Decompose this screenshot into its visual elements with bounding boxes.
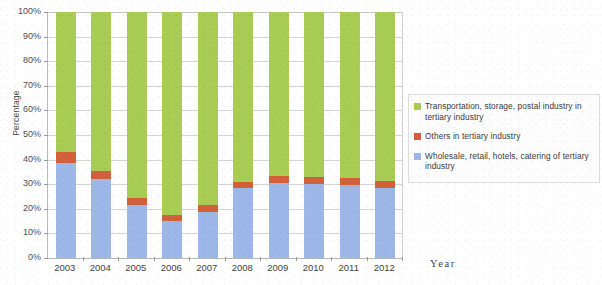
- x-tick-mark: [296, 257, 297, 261]
- bar-segment: [91, 171, 111, 180]
- y-tick-mark: [44, 110, 48, 111]
- x-tick-mark: [367, 257, 368, 261]
- y-tick-label: 70%: [23, 80, 41, 90]
- y-tick-label: 80%: [23, 55, 41, 65]
- y-tick-mark: [44, 258, 48, 259]
- plot-background: [48, 12, 403, 258]
- bar-segment: [233, 188, 253, 258]
- bar-segment: [127, 205, 147, 258]
- y-tick-mark: [44, 37, 48, 38]
- legend-swatch-icon-transportation: [414, 103, 421, 110]
- x-tick-mark: [189, 257, 190, 261]
- y-tick-mark: [44, 160, 48, 161]
- y-tick-label: 100%: [18, 6, 41, 16]
- bar-segment: [340, 12, 360, 178]
- y-tick-label: 90%: [23, 31, 41, 41]
- stacked-bar-chart: Percentage 0%10%20%30%40%50%60%70%80%90%…: [0, 0, 602, 285]
- legend-label-wholesale: Wholesale, retail, hotels, catering of t…: [425, 151, 595, 172]
- bar-segment: [198, 212, 218, 258]
- bar-segment: [91, 12, 111, 171]
- y-tick-label: 10%: [23, 227, 41, 237]
- y-tick-mark: [44, 12, 48, 13]
- x-tick-mark: [83, 257, 84, 261]
- y-tick-label: 0%: [28, 252, 41, 262]
- bar-segment: [340, 185, 360, 258]
- y-tick-label: 40%: [23, 154, 41, 164]
- x-axis-title: Year: [430, 258, 456, 269]
- bar-segment: [162, 221, 182, 258]
- legend-item-others: Others in tertiary industry: [414, 131, 595, 142]
- plot-area: 0%10%20%30%40%50%60%70%80%90%100%: [47, 12, 403, 259]
- y-tick-label: 20%: [23, 203, 41, 213]
- legend-label-transportation: Transportation, storage, postal industry…: [425, 101, 595, 122]
- x-axis-labels: 2003200420052006200720082009201020112012: [47, 262, 402, 280]
- legend-swatch-icon-wholesale: [414, 153, 421, 160]
- y-tick-label: 50%: [23, 129, 41, 139]
- legend-item-wholesale: Wholesale, retail, hotels, catering of t…: [414, 151, 595, 172]
- bar-segment: [269, 176, 289, 183]
- bar-segment: [269, 183, 289, 258]
- y-tick-mark: [44, 209, 48, 210]
- x-tick-mark: [402, 257, 403, 261]
- y-tick-label: 30%: [23, 178, 41, 188]
- bar-segment: [127, 198, 147, 205]
- x-tick-mark: [331, 257, 332, 261]
- y-tick-mark: [44, 61, 48, 62]
- bar-segment: [375, 188, 395, 258]
- x-axis-label: 2012: [362, 262, 406, 273]
- x-tick-mark: [154, 257, 155, 261]
- y-tick-mark: [44, 86, 48, 87]
- bar-segment: [340, 178, 360, 185]
- bar-segment: [198, 205, 218, 212]
- bar-column: [233, 12, 253, 258]
- y-axis-title: Percentage: [11, 73, 21, 153]
- y-tick-mark: [44, 233, 48, 234]
- x-tick-mark: [225, 257, 226, 261]
- y-tick-mark: [44, 184, 48, 185]
- bar-column: [127, 12, 147, 258]
- bar-segment: [127, 12, 147, 198]
- bar-column: [198, 12, 218, 258]
- bar-segment: [198, 12, 218, 205]
- bar-segment: [269, 12, 289, 176]
- bar-segment: [56, 163, 76, 258]
- bar-segment: [304, 184, 324, 258]
- bar-segment: [162, 215, 182, 221]
- legend-label-others: Others in tertiary industry: [425, 131, 520, 142]
- bar-segment: [162, 12, 182, 215]
- bar-column: [304, 12, 324, 258]
- y-tick-label: 60%: [23, 104, 41, 114]
- bar-series-group: [48, 12, 403, 258]
- bar-column: [56, 12, 76, 258]
- bar-segment: [375, 181, 395, 188]
- x-tick-mark: [260, 257, 261, 261]
- legend-item-transportation: Transportation, storage, postal industry…: [414, 101, 595, 122]
- bar-column: [375, 12, 395, 258]
- chart-legend: Transportation, storage, postal industry…: [408, 94, 600, 183]
- bar-column: [91, 12, 111, 258]
- legend-swatch-icon-others: [414, 133, 421, 140]
- bar-column: [162, 12, 182, 258]
- bar-segment: [375, 12, 395, 181]
- bar-column: [269, 12, 289, 258]
- y-tick-mark: [44, 135, 48, 136]
- bar-segment: [304, 12, 324, 177]
- bar-segment: [91, 179, 111, 258]
- bar-segment: [233, 182, 253, 188]
- bar-segment: [56, 12, 76, 152]
- bar-segment: [233, 12, 253, 182]
- bar-column: [340, 12, 360, 258]
- bar-segment: [56, 152, 76, 163]
- x-tick-mark: [118, 257, 119, 261]
- bar-segment: [304, 177, 324, 184]
